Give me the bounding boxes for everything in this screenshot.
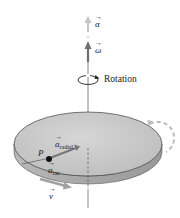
rotation-arrow-icon xyxy=(78,74,100,85)
alpha-label: α xyxy=(95,20,100,29)
omega-label: ω xyxy=(95,46,101,55)
velocity-symbol: v xyxy=(49,192,53,201)
a-radial-symbol: a xyxy=(55,140,60,149)
alpha-symbol: α xyxy=(95,20,100,29)
a-tan-label: atan xyxy=(48,166,60,176)
alpha-vector xyxy=(85,16,92,38)
omega-symbol: ω xyxy=(95,46,101,55)
a-radial-label: aradial xyxy=(55,140,73,150)
a-tan-symbol: a xyxy=(48,166,53,175)
rotating-disk-diagram xyxy=(0,0,180,218)
rotation-label: Rotation xyxy=(104,75,137,85)
a-tan-subscript: tan xyxy=(53,170,60,176)
a-radial-subscript: radial xyxy=(60,144,74,150)
velocity-label: v xyxy=(49,192,53,201)
omega-vector xyxy=(85,41,92,62)
point-p-label: P xyxy=(38,149,44,158)
